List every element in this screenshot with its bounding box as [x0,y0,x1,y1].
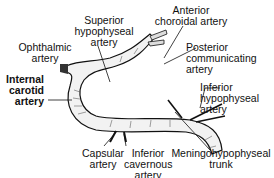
label-capsular: Capsular artery [80,148,126,170]
ophthalmic-stub [60,64,68,74]
label-meningohypophyseal: Meningohypophyseal trunk [168,148,274,170]
label-ophthalmic: Ophthalmic artery [16,42,74,64]
label-posterior-communicating: Posterior communicating artery [186,42,257,75]
label-inferior-hypophyseal: Inferior hypophyseal artery [200,82,259,115]
label-internal-carotid: Internal carotid artery [2,74,44,107]
label-inferior-cavernous: Inferior cavernous artery [124,148,172,178]
label-anterior-choroidal: Anterior choroidal artery [145,5,237,27]
label-superior-hypophyseal: Superior hypophyseal artery [68,15,140,48]
